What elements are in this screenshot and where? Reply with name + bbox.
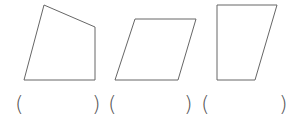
answer-blank-2-close: ) xyxy=(184,92,193,116)
shapes-canvas xyxy=(0,0,300,129)
trapezoid-shape-3 xyxy=(217,5,277,80)
answer-blank-3-close: ) xyxy=(279,92,288,116)
answer-blank-3-open: ( xyxy=(201,92,210,116)
answer-blank-1-close: ) xyxy=(92,92,101,116)
answer-blank-1-open: ( xyxy=(15,92,24,116)
quadrilateral-shape-1 xyxy=(24,5,95,80)
answer-blank-2-open: ( xyxy=(108,92,117,116)
parallelogram-shape-2 xyxy=(115,19,196,80)
